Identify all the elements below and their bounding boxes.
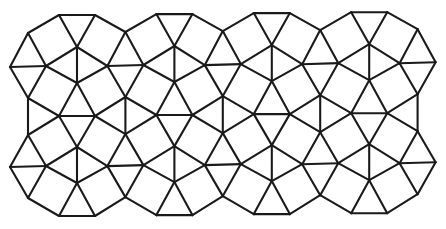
tiling-edge [369,80,387,113]
tiling-edge [95,116,125,134]
tiling-edge [369,44,399,63]
tiling-edge [223,114,254,133]
tiling-edge [223,133,241,164]
tiling-edge [125,165,143,197]
tiling-edge [156,82,174,115]
tiling-edge [223,164,241,196]
tiling-edges [10,12,436,216]
tiling-edge [77,166,107,183]
tiling-edge [174,165,204,182]
tiling-edge [59,116,77,147]
tiling-edge [351,180,369,213]
tiling-edge [272,181,290,214]
tiling-edge [125,14,156,32]
tiling-edge [125,134,143,165]
tiling-edge [400,62,436,63]
tiling-edge [254,114,272,145]
tiling-edge [272,114,290,145]
tiling-edge [338,63,369,80]
tiling-edge [205,164,241,165]
tiling-edge [400,131,418,163]
tiling-edge [302,30,320,64]
tiling-edge [320,30,338,63]
tiling-edge [174,82,192,115]
tiling-edge [418,131,436,162]
tiling-edge [174,146,204,165]
tiling-edge [174,115,192,146]
tiling-edge [369,12,387,44]
tiling-edge [143,146,174,165]
tiling-edge [174,65,204,82]
tiling-edge [77,47,107,66]
tiling-edge [272,81,290,114]
tiling-edge [77,183,95,216]
tiling-edge [28,15,59,33]
tiling-edge [241,164,272,181]
tiling-edge [302,132,320,164]
tiling-edge [418,62,436,94]
tiling-edge [95,197,125,216]
tiling-canvas [0,0,446,229]
tiling-edge [369,63,399,80]
tiling-edge [28,198,59,216]
tiling-edge [418,29,436,62]
tiling-edge [254,181,272,214]
tiling-edge [254,81,272,114]
tiling-edge [95,97,125,116]
tiling-edge [10,167,28,198]
tiling-edge [28,166,46,198]
tiling-edge [205,133,223,165]
tiling-edge [28,98,59,116]
tiling-edge [205,64,241,65]
tiling-edge [10,135,28,167]
tiling-edge [351,113,369,144]
tiling-edge [320,63,338,95]
tiling-edge [125,115,156,134]
tiling-edge [338,44,369,63]
tiling-edge [107,66,125,97]
tiling-edge [28,116,59,135]
tiling-edge [174,14,192,46]
tiling-edge [125,197,156,215]
tiling-edge [156,115,174,146]
tiling-edge [387,94,417,113]
tiling-edge [10,33,28,67]
tiling-edge [320,195,351,213]
tiling-edge [192,96,222,115]
tiling-edge [241,45,272,64]
tiling-edge [10,66,46,67]
tiling-edge [272,145,302,164]
tiling-edge [95,15,125,32]
tiling-edge [10,166,46,167]
tiling-edge [77,116,95,147]
tiling-edge [338,144,369,163]
tiling-edge [143,65,174,82]
tiling-edge [143,165,174,182]
tiling-edge [320,132,338,163]
tiling-edge [205,31,223,65]
tiling-edge [400,29,418,63]
tiling-edge [241,145,272,164]
tiling-edge [400,63,418,94]
tiling-edge [241,64,272,81]
tiling-edge [107,166,125,197]
tiling-edge [223,96,254,114]
tiling-edge [290,195,320,214]
tiling-edge [369,180,387,213]
tiling-edge [223,64,241,96]
tiling-edge [46,66,77,83]
tiling-edge [174,46,204,65]
tiling-edge [369,163,399,180]
tiling-edge [107,165,143,166]
tiling-edge [205,65,223,96]
tiling-edge [272,45,302,64]
tiling-edge [302,63,338,64]
tiling-edge [125,65,143,97]
tiling-edge [107,32,125,66]
tiling-edge [254,13,272,45]
tiling-edge [125,32,143,65]
tiling-edge [59,15,77,47]
tiling-edge [192,196,222,215]
tiling-edge [77,15,95,47]
tiling-edge [290,95,320,114]
